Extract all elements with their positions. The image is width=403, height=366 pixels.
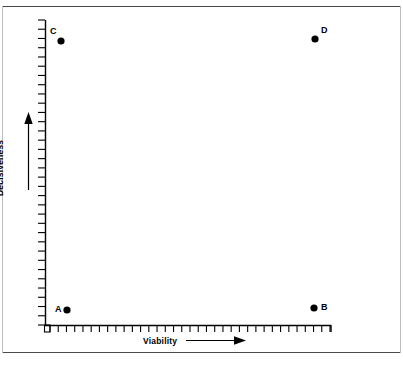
data-point-label-a: A	[55, 305, 62, 314]
data-point-label-b: B	[321, 303, 328, 312]
scatter-figure: ABCD Viability Decisiveness	[0, 0, 403, 366]
data-point-label-c: C	[50, 27, 57, 36]
y-axis-title: Decisiveness	[0, 140, 5, 196]
data-point-a[interactable]	[63, 306, 70, 313]
x-axis-arrow-icon	[186, 336, 246, 345]
y-axis-ticks	[38, 20, 45, 325]
y-axis-arrow-icon	[24, 112, 32, 190]
data-point-group	[57, 35, 318, 313]
data-point-c[interactable]	[57, 37, 64, 44]
data-point-label-d: D	[321, 26, 328, 35]
data-point-b[interactable]	[310, 304, 317, 311]
x-axis-title: Viability	[143, 336, 177, 346]
data-point-d[interactable]	[311, 35, 318, 42]
